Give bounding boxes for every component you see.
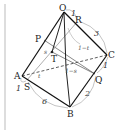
len-AS: 1 [16, 84, 21, 93]
arc-SB [28, 82, 68, 108]
label-Q: Q [95, 75, 102, 85]
pyramid-diagram: O R C P T A S Q B 1 3 1 2 6 1 s t 1−s 1−… [0, 0, 122, 134]
len-RC: 3 [94, 29, 99, 38]
len-SB: 6 [42, 97, 47, 106]
len-s: s [44, 48, 47, 55]
len-t: t [38, 72, 41, 79]
arc-QB [72, 76, 96, 107]
len-OR: 1 [71, 9, 76, 18]
len-QB: 2 [84, 89, 90, 98]
edge-O-center [64, 12, 66, 68]
label-A: A [13, 71, 21, 81]
label-O: O [59, 3, 66, 13]
len-1-t: 1−t [78, 44, 90, 51]
point-T [51, 51, 54, 54]
label-T: T [51, 54, 57, 64]
label-B: B [67, 109, 74, 119]
label-P: P [35, 34, 41, 44]
len-CQ: 1 [103, 61, 108, 70]
edge-OT [52, 12, 64, 52]
label-S: S [24, 82, 30, 92]
len-1-s: 1−s [65, 67, 77, 74]
label-C: C [108, 50, 115, 60]
